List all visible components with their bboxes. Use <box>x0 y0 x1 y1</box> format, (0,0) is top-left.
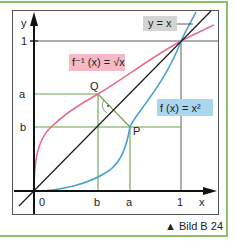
figure-caption: ▲ Bild B 24 <box>165 220 223 232</box>
x-tick-b: b <box>94 196 100 208</box>
function-label: f (x) = x² <box>160 102 201 114</box>
y-tick-b: b <box>20 121 26 133</box>
identity-label: y = x <box>148 17 172 29</box>
x-tick-a: a <box>126 196 133 208</box>
point-q-label: Q <box>90 80 99 92</box>
triangle-marker-icon: ▲ <box>165 220 176 232</box>
function-inverse-diagram: y 1 a b 0 b a 1 x Q P y = x f⁻¹ (x) = √x… <box>0 0 237 241</box>
y-axis-label: y <box>21 17 27 29</box>
x-axis-label: x <box>199 196 205 208</box>
right-angle-dot <box>107 105 109 107</box>
y-tick-1: 1 <box>21 35 27 47</box>
caption-text: Bild B 24 <box>179 220 223 232</box>
point-p-label: P <box>133 125 140 137</box>
inverse-label: f⁻¹ (x) = √x <box>72 56 125 68</box>
y-tick-a: a <box>19 88 26 100</box>
origin-label: 0 <box>39 196 45 208</box>
x-axis-arrow-icon <box>203 187 217 195</box>
x-tick-1: 1 <box>177 196 183 208</box>
y-axis-arrow-icon <box>30 12 38 26</box>
